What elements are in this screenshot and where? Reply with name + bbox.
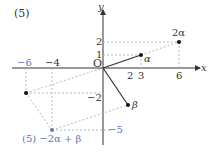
alpha-label: α (144, 54, 151, 64)
vector-diagram: (5) y x O 2 3 6 −6 −4 1 2 −2 −5 α 2α β (… (0, 0, 211, 154)
y-tick-1: 1 (96, 50, 102, 60)
y-tick-neg5: −5 (108, 125, 123, 135)
beta-label: β (132, 100, 138, 110)
x-tick-neg6: −6 (17, 58, 32, 68)
y-tick-neg2: −2 (87, 93, 102, 103)
x-axis-label: x (201, 63, 207, 73)
x-tick-6: 6 (176, 71, 182, 81)
two-alpha-point (177, 40, 181, 44)
beta-vector (103, 68, 128, 105)
y-axis-label: y (98, 2, 104, 12)
neg-two-alpha-point (24, 91, 28, 95)
alpha-vector (103, 55, 141, 68)
two-alpha-label: 2α (172, 28, 185, 38)
problem-label: (5) (14, 8, 30, 19)
x-tick-2: 2 (127, 71, 133, 81)
result-label: (5) −2α + β (22, 134, 81, 144)
result-point (50, 128, 54, 132)
x-tick-neg4: −4 (45, 58, 60, 68)
y-tick-2: 2 (96, 37, 102, 47)
x-tick-3: 3 (138, 71, 144, 81)
beta-point (126, 103, 130, 107)
alpha-point (139, 53, 143, 57)
